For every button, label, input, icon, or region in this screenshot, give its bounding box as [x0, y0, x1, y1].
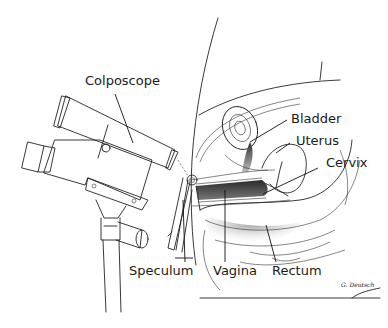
label-rectum: Rectum	[272, 264, 322, 277]
label-colposcope: Colposcope	[85, 74, 160, 87]
label-vagina: Vagina	[213, 264, 257, 277]
label-bladder: Bladder	[291, 112, 341, 125]
label-speculum: Speculum	[129, 264, 193, 277]
colposcope	[22, 96, 188, 312]
label-uterus: Uterus	[296, 134, 339, 147]
label-cervix: Cervix	[326, 156, 367, 169]
colposcopy-diagram: Colposcope Bladder Uterus Cervix Speculu…	[0, 0, 388, 328]
artist-signature: G. Deutsch	[341, 281, 374, 288]
